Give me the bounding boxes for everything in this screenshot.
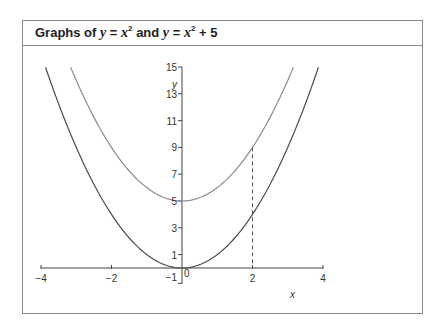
y-tick-label: 3 <box>171 223 177 234</box>
plot-area: −4−2−102413579111315yx <box>0 0 446 333</box>
x-tick-label: 0 <box>184 268 190 279</box>
y-tick-label: 13 <box>166 89 178 100</box>
x-tick-label: −2 <box>106 273 118 284</box>
axes <box>41 67 323 283</box>
y-tick-label: 15 <box>166 62 178 73</box>
x-axis-label: x <box>289 289 296 300</box>
x-tick-label: 4 <box>320 273 326 284</box>
x-tick-label: −1 <box>166 272 178 283</box>
y-tick-label: 11 <box>167 116 178 127</box>
y-axis-label: y <box>171 79 178 90</box>
x-tick-label: −4 <box>35 273 47 284</box>
axis-labels: −4−2−102413579111315yx <box>35 62 326 300</box>
y-tick-label: 1 <box>171 250 177 261</box>
x-tick-label: 2 <box>250 273 256 284</box>
y-tick-label: 9 <box>171 142 177 153</box>
y-tick-label: 5 <box>171 196 177 207</box>
y-tick-label: 7 <box>171 169 177 180</box>
